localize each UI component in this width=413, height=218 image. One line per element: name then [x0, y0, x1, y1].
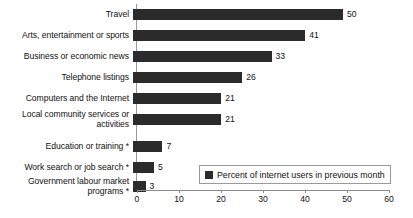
bar	[133, 162, 154, 173]
bar-row: Arts, entertainment or sports41	[0, 25, 413, 45]
bar-row: Local community services or activities21	[0, 105, 413, 133]
bar-category-label: Work search or job search *	[0, 162, 133, 172]
x-axis-tick-label: 0	[135, 194, 140, 204]
x-axis-tick-mark	[347, 190, 348, 193]
x-axis-tick-mark	[179, 190, 180, 193]
bar	[133, 93, 221, 104]
legend-label: Percent of internet users in previous mo…	[217, 170, 385, 180]
bar-row: Business or economic news33	[0, 46, 413, 66]
x-axis-tick-mark	[263, 190, 264, 193]
bar-track: 50	[133, 4, 413, 24]
legend-swatch-icon	[205, 171, 213, 179]
bar-category-label: Local community services or activities	[0, 109, 133, 129]
bar-track: 33	[133, 46, 413, 66]
bar-track: 26	[133, 67, 413, 87]
bar-row: Travel50	[0, 4, 413, 24]
bar-value-label: 26	[246, 72, 256, 82]
bar-row: Telephone listings26	[0, 67, 413, 87]
x-axis-tick-mark	[305, 190, 306, 193]
bar-category-label: Telephone listings	[0, 72, 133, 82]
x-axis-tick-label: 10	[174, 194, 184, 204]
bar-category-label: Computers and the Internet	[0, 93, 133, 103]
bar	[133, 51, 272, 62]
x-axis-tick-mark	[137, 190, 138, 193]
x-axis-tick-label: 50	[342, 194, 352, 204]
bar-value-label: 41	[309, 30, 319, 40]
bar-value-label: 33	[276, 51, 286, 61]
x-axis-tick-label: 30	[258, 194, 268, 204]
bar-row: Education or training *7	[0, 136, 413, 156]
bar-category-label: Education or training *	[0, 141, 133, 151]
bar-track: 7	[133, 136, 413, 156]
chart-legend: Percent of internet users in previous mo…	[199, 165, 391, 184]
x-axis-tick-label: 40	[300, 194, 310, 204]
bar	[133, 72, 242, 83]
x-axis-tick-label: 20	[216, 194, 226, 204]
x-axis-tick-label: 60	[384, 194, 394, 204]
bar-category-label: Government labour market programs *	[0, 176, 133, 196]
bar-category-label: Arts, entertainment or sports	[0, 30, 133, 40]
bar	[133, 114, 221, 125]
x-axis-tick-mark	[389, 190, 390, 193]
bar-category-label: Business or economic news	[0, 51, 133, 61]
bar-value-label: 7	[166, 141, 171, 151]
bar-value-label: 5	[158, 162, 163, 172]
bar	[133, 9, 343, 20]
bar-value-label: 21	[225, 93, 235, 103]
bar-category-label: Travel	[0, 9, 133, 19]
horizontal-bar-chart: Travel50Arts, entertainment or sports41B…	[0, 0, 413, 218]
bar-value-label: 21	[225, 114, 235, 124]
bar	[133, 141, 162, 152]
bar-value-label: 50	[347, 9, 357, 19]
bar-track: 41	[133, 25, 413, 45]
bar-track: 21	[133, 105, 413, 133]
x-axis-tick-mark	[221, 190, 222, 193]
bar	[133, 30, 305, 41]
